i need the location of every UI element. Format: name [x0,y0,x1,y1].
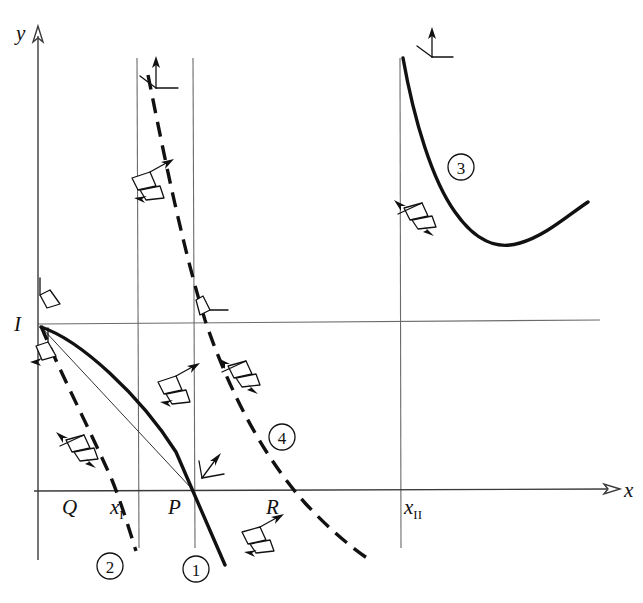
label-xII-subscript: II [413,507,422,522]
label-R: R [265,495,279,519]
x-axis-line [34,489,608,491]
curve-1-badge-text: 1 [192,561,201,580]
direction-marker-trident [140,56,178,88]
label-xI-subscript: I [119,507,123,522]
horizontal-line-I [38,320,600,324]
direction-marker-bird [158,363,200,407]
label-y-axis: y [14,21,26,45]
label-x-axis: x [623,478,634,502]
diagram-svg: y x I Q xI P R xII 1 2 3 4 [0,0,643,603]
vertical-line-xII [400,58,401,548]
curve-4-badge: 4 [269,424,295,450]
axes [33,26,620,560]
curve-2-badge-text: 2 [106,558,115,577]
direction-marker-bird [242,514,284,557]
chord-I-to-P-path [42,328,192,489]
direction-marker-trident [417,27,453,57]
direction-marker-trident [199,453,224,478]
curve-1-badge: 1 [183,556,209,582]
vertical-line-P [193,58,195,548]
gridlines [38,58,600,548]
label-xI: xI [109,495,124,522]
direction-marker-bird [132,159,174,203]
vertical-line-xI [137,58,139,548]
direction-marker-flag-up [40,278,60,308]
label-Q: Q [62,495,77,519]
direction-marker-bird [218,358,260,394]
label-xII: xII [403,495,422,522]
direction-marker-flag [196,296,228,315]
figure-canvas: y x I Q xI P R xII 1 2 3 4 [0,0,643,603]
curve-3-badge-text: 3 [457,159,466,178]
curve-2-badge: 2 [97,553,123,579]
label-I: I [13,312,22,336]
label-P: P [167,495,181,519]
curve-4-path [148,75,370,560]
curve-3-badge: 3 [448,154,474,180]
curve-4-badge-text: 4 [278,429,287,448]
